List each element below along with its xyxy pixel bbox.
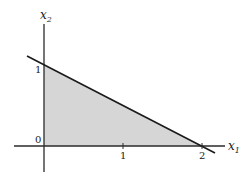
x-tick-label-2: 2 (199, 150, 205, 161)
origin-label: 0 (35, 134, 41, 145)
x-tick-label-1: 1 (120, 150, 126, 161)
diagram-canvas: x2 x1 0 1 1 2 (0, 0, 251, 178)
x-axis-label: x1 (228, 139, 240, 155)
feasible-region-diagram: x2 x1 0 1 1 2 (0, 0, 251, 178)
y-axis-label: x2 (40, 8, 52, 24)
y-tick-label-1: 1 (35, 64, 41, 75)
